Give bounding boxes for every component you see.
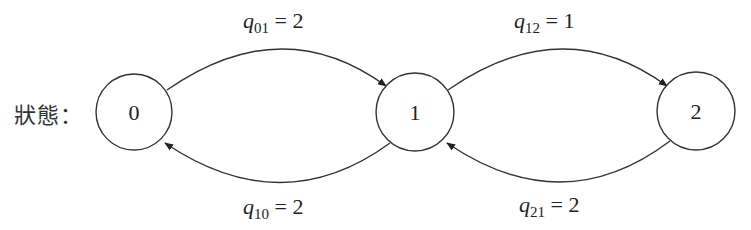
equals-sign: = — [275, 8, 287, 33]
state-node-1: 1 — [376, 73, 454, 151]
rate-subscript: 10 — [254, 206, 269, 222]
state-node-1-label: 1 — [410, 100, 421, 125]
arc-1-to-0 — [165, 143, 390, 183]
arc-0-to-1 — [167, 49, 386, 90]
rate-symbol: q — [514, 8, 525, 33]
rate-symbol: q — [243, 194, 254, 219]
arc-1-to-2 — [448, 49, 667, 90]
rate-label-q01: q01 = 2 — [243, 8, 303, 34]
rate-value: 1 — [563, 8, 574, 33]
diagram-canvas: 0 1 2 — [0, 0, 751, 230]
rate-symbol: q — [243, 8, 254, 33]
rate-symbol: q — [519, 192, 530, 217]
state-node-2: 2 — [657, 72, 735, 150]
rate-subscript: 01 — [254, 20, 269, 36]
state-node-0-label: 0 — [129, 100, 140, 125]
rate-value: 2 — [292, 8, 303, 33]
rate-label-q12: q12 = 1 — [514, 8, 574, 34]
equals-sign: = — [546, 8, 558, 33]
rate-value: 2 — [292, 194, 303, 219]
state-node-0: 0 — [96, 74, 172, 150]
rate-label-q21: q21 = 2 — [519, 192, 579, 218]
equals-sign: = — [551, 192, 563, 217]
equals-sign: = — [275, 194, 287, 219]
state-node-2-label: 2 — [691, 99, 702, 124]
rate-subscript: 12 — [525, 20, 540, 36]
rate-value: 2 — [568, 192, 579, 217]
rate-subscript: 21 — [530, 204, 545, 220]
arc-2-to-1 — [447, 141, 670, 182]
rate-label-q10: q10 = 2 — [243, 194, 303, 220]
